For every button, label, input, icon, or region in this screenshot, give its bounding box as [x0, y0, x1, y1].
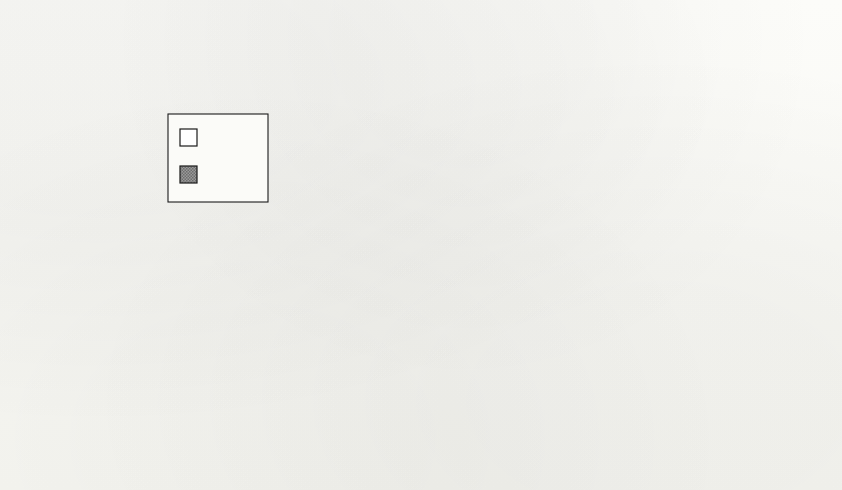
legend-swatch-canada	[180, 166, 197, 183]
chart-figure	[0, 0, 842, 490]
legend-box	[168, 114, 268, 202]
bar-chart-canvas	[0, 0, 842, 490]
chart-legend[interactable]	[168, 114, 268, 202]
legend-swatch-usa	[180, 129, 197, 146]
